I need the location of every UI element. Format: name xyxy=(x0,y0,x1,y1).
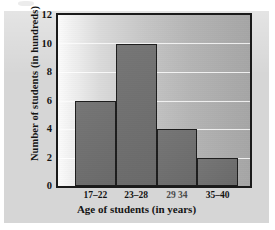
y-axis-tick-label: 2 xyxy=(30,153,52,164)
histogram-figure: Number of students (in hundreds) 0246810… xyxy=(0,0,275,230)
bar-series xyxy=(58,15,250,186)
y-axis-tick-label: 6 xyxy=(30,96,52,107)
y-axis-tick-labels: 024681012 xyxy=(30,13,52,188)
x-axis-tick-label: 35–40 xyxy=(194,189,242,201)
y-axis-tick-label: 8 xyxy=(30,67,52,78)
bar xyxy=(157,129,198,186)
y-axis-tick-label: 4 xyxy=(30,124,52,135)
bar xyxy=(197,158,238,187)
y-axis-tick-label: 0 xyxy=(30,181,52,192)
y-axis-tick-label: 12 xyxy=(30,10,52,21)
x-axis-tick-labels: 17–2223–2829 3435–40 xyxy=(56,189,252,202)
plot-area xyxy=(56,13,252,188)
bar xyxy=(75,101,116,187)
bar xyxy=(116,44,157,187)
y-axis-tick-label: 10 xyxy=(30,39,52,50)
x-axis-title: Age of students (in years) xyxy=(4,203,269,215)
